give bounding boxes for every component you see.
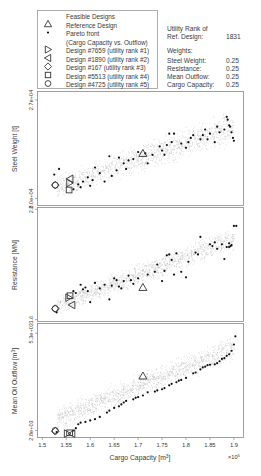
pareto-point: [229, 126, 231, 128]
pareto-point: [223, 357, 225, 359]
resistance-panel: 1.62.8: [28, 205, 244, 323]
x-tick-label: 1.6: [86, 442, 94, 448]
x-tick-label: 1.65: [109, 442, 120, 448]
pareto-point: [209, 133, 211, 135]
pareto-point: [80, 422, 82, 424]
oil-outflow-panel: 2.8e+035.3e+03: [28, 323, 244, 441]
pareto-point: [185, 147, 187, 149]
pareto-point: [151, 154, 153, 156]
x-tick-label: 1.85: [204, 442, 215, 448]
pareto-point: [147, 274, 149, 276]
pareto-point: [194, 251, 196, 253]
pareto-point: [228, 242, 230, 244]
pareto-point: [192, 134, 194, 136]
y-tick-label: 5.3e+03: [28, 323, 34, 343]
pareto-point: [159, 145, 161, 147]
pareto-point: [120, 403, 122, 405]
pareto-point: [80, 284, 82, 286]
pareto-point: [130, 279, 132, 281]
pareto-point: [173, 133, 175, 135]
pareto-point: [103, 284, 105, 286]
pareto-point: [58, 168, 60, 170]
pareto-point: [214, 363, 216, 365]
pareto-point: [82, 288, 84, 290]
pareto-point: [127, 274, 129, 276]
weight-value-resistance: 0.25: [226, 65, 239, 72]
pareto-point: [190, 137, 192, 139]
pareto-point: [168, 253, 170, 255]
pareto-point: [108, 155, 110, 157]
pareto-point: [230, 244, 232, 246]
pareto-point: [163, 387, 165, 389]
pareto-point: [235, 225, 237, 227]
pareto-point: [161, 388, 163, 390]
pareto-point: [185, 276, 187, 278]
pareto-point: [209, 243, 211, 245]
weight-value-outflow: 0.25: [226, 73, 239, 80]
pareto-point: [163, 154, 165, 156]
pareto-point: [221, 243, 223, 245]
pareto-point: [53, 173, 55, 175]
pareto-point: [178, 380, 180, 382]
pareto-point: [202, 366, 204, 368]
figure: Feasible Designs Reference Design Pareto…: [0, 0, 261, 476]
pareto-point: [171, 259, 173, 261]
pareto-point: [84, 286, 86, 288]
pareto-point: [87, 176, 89, 178]
pareto-point: [180, 142, 182, 144]
pareto-point: [113, 277, 115, 279]
pareto-point: [199, 236, 201, 238]
pareto-point: [216, 248, 218, 250]
legend-label-design-3: Design #167 (utility rank #3): [66, 64, 146, 72]
x-axis-ticks: 1.51.551.61.651.71.751.81.851.9: [38, 438, 238, 449]
pareto-point: [135, 397, 137, 399]
pareto-point: [111, 175, 113, 177]
pareto-point: [228, 353, 230, 355]
legend-label-design-2: Design #1890 (utility rank #2): [66, 56, 149, 64]
weight-name-cargo: Cargo Capacity:: [167, 81, 214, 89]
pareto-point: [118, 285, 120, 287]
pareto-point: [180, 379, 182, 381]
legend-label-pareto: Pareto front: [66, 30, 100, 37]
pareto-point: [216, 126, 218, 128]
pareto-point: [204, 366, 206, 368]
pareto-point: [185, 377, 187, 379]
dot-black-icon: [47, 31, 49, 33]
pareto-point: [82, 180, 84, 182]
pareto-point: [75, 427, 77, 429]
pareto-point: [171, 141, 173, 143]
pareto-point: [108, 298, 110, 300]
pareto-point: [226, 116, 228, 118]
pareto-point: [137, 277, 139, 279]
pareto-point: [89, 301, 91, 303]
legend-label-design-1: Design #7659 (utility rank #1): [66, 47, 149, 55]
pareto-point: [94, 418, 96, 420]
pareto-point: [192, 372, 194, 374]
pareto-point: [123, 162, 125, 164]
pareto-point: [187, 261, 189, 263]
x-tick-label: 1.5: [38, 442, 46, 448]
pareto-point: [168, 384, 170, 386]
legend-label-reference: Reference Design: [66, 22, 118, 30]
legend-label-feasible: Feasible Designs: [66, 13, 115, 21]
pareto-point: [230, 350, 232, 352]
y-axis-label-resistance: Resistance [MN]: [11, 240, 19, 290]
pareto-point: [147, 391, 149, 393]
pareto-point: [233, 225, 235, 227]
y-tick-label: 2.7e+04: [28, 90, 34, 110]
x-axis-label: Cargo Capacity [m3]: [110, 454, 171, 463]
pareto-point: [223, 128, 225, 130]
pareto-point: [230, 131, 232, 133]
pareto-point: [180, 271, 182, 273]
weight-name-resistance: Resistance:: [167, 65, 202, 72]
pareto-point: [75, 292, 77, 294]
utility-rank-label-1: Utility Rank of: [167, 25, 208, 33]
pareto-point: [120, 287, 122, 289]
pareto-point: [147, 162, 149, 164]
x-tick-label: 1.75: [156, 442, 167, 448]
pareto-point: [87, 290, 89, 292]
pareto-point: [132, 283, 134, 285]
legend-label-design-4: Design #5513 (utility rank #4): [66, 73, 149, 81]
pareto-point: [77, 423, 79, 425]
pareto-point: [132, 398, 134, 400]
